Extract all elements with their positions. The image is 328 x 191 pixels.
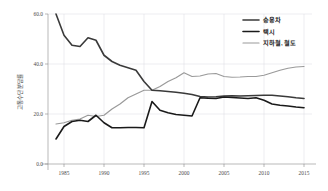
y-axis-title: 교통수단 분담률 xyxy=(16,74,24,111)
transport-mode-share-chart: 0.020.040.060.0 198519901995200020052010… xyxy=(0,0,328,191)
y-tick-label: 0.0 xyxy=(36,161,43,167)
x-tick-label: 2000 xyxy=(179,170,190,176)
tick-marks xyxy=(45,14,304,167)
x-tick-label: 1990 xyxy=(99,170,110,176)
legend-label: 지하철, 철도 xyxy=(263,39,296,47)
x-tick-label: 2005 xyxy=(219,170,230,176)
chart-canvas: 0.020.040.060.0 198519901995200020052010… xyxy=(0,0,328,191)
x-tick-label: 2015 xyxy=(299,170,310,176)
y-tick-labels: 0.020.040.060.0 xyxy=(34,11,44,167)
gridlines xyxy=(48,14,312,164)
y-tick-label: 20.0 xyxy=(34,111,44,117)
x-tick-label: 2010 xyxy=(259,170,270,176)
legend-label: 승용차 xyxy=(263,16,281,24)
x-tick-labels: 1985199019952000200520102015 xyxy=(59,170,310,176)
y-tick-label: 40.0 xyxy=(34,61,44,67)
series-line xyxy=(56,97,304,139)
x-tick-label: 1985 xyxy=(59,170,70,176)
x-tick-label: 1995 xyxy=(139,170,150,176)
y-tick-label: 60.0 xyxy=(34,11,44,17)
legend-label: 택시 xyxy=(263,28,275,36)
chart-legend: 승용차택시지하철, 철도 xyxy=(243,16,296,47)
series-line xyxy=(56,14,304,99)
